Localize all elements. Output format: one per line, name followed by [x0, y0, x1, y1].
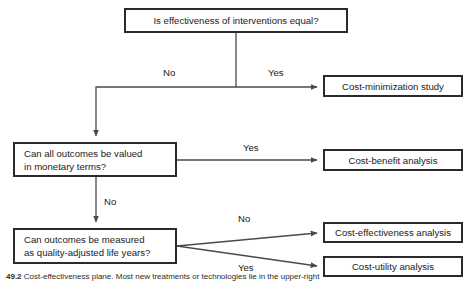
- decision-box-effectiveness-equal[interactable]: Is effectiveness of interventions equal?: [124, 8, 348, 33]
- decision-box-monetary-valuation-line2: in monetary terms?: [24, 161, 106, 172]
- edge-label-q1-no: No: [163, 67, 175, 78]
- decision-box-effectiveness-equal-label: Is effectiveness of interventions equal?: [153, 14, 318, 27]
- decision-box-qaly-measurable-text: Can outcomes be measured as quality-adju…: [24, 233, 150, 259]
- outcome-box-cost-minimization-study-label: Cost-minimization study: [342, 80, 444, 93]
- decision-box-monetary-valuation-text: Can all outcomes be valued in monetary t…: [24, 147, 142, 173]
- connector-q3-no: [177, 233, 317, 246]
- decision-box-monetary-valuation-line1: Can all outcomes be valued: [24, 148, 142, 159]
- outcome-box-cost-benefit-analysis[interactable]: Cost-benefit analysis: [323, 149, 463, 171]
- decision-box-qaly-measurable-line1: Can outcomes be measured: [24, 234, 145, 245]
- decision-box-qaly-measurable[interactable]: Can outcomes be measured as quality-adju…: [13, 228, 177, 264]
- outcome-box-cost-minimization-study[interactable]: Cost-minimization study: [323, 75, 463, 97]
- outcome-box-cost-benefit-analysis-label: Cost-benefit analysis: [348, 154, 437, 167]
- outcome-box-cost-effectiveness-analysis-label: Cost-effectiveness analysis: [335, 226, 451, 239]
- flowchart-figure: Is effectiveness of interventions equal?…: [0, 0, 469, 285]
- outcome-box-cost-effectiveness-analysis[interactable]: Cost-effectiveness analysis: [323, 222, 463, 243]
- figure-caption-text: Cost-effectiveness plane. Most new treat…: [24, 272, 320, 281]
- figure-caption-number: 49.2: [6, 272, 22, 281]
- edge-label-q2-yes: Yes: [243, 142, 259, 153]
- edge-label-q1-yes: Yes: [268, 67, 284, 78]
- figure-caption: 49.2 Cost-effectiveness plane. Most new …: [6, 272, 469, 282]
- decision-box-monetary-valuation[interactable]: Can all outcomes be valued in monetary t…: [13, 142, 177, 177]
- edge-label-q2-no: No: [104, 196, 116, 207]
- connector-q1-no: [96, 87, 236, 136]
- edge-label-q3-no: No: [238, 213, 250, 224]
- decision-box-qaly-measurable-line2: as quality-adjusted life years?: [24, 247, 150, 258]
